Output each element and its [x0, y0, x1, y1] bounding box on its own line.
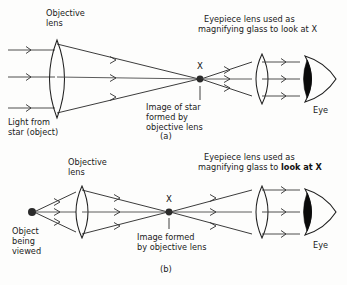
source-label-b-line2: being — [12, 236, 35, 246]
objective-lens-a — [50, 40, 65, 118]
panel-b-converging-rays — [82, 190, 168, 234]
eyepiece-label-b-line2: magnifying glass to look at X — [198, 162, 323, 172]
image-caption-a-line3: objective lens — [146, 122, 203, 132]
eye-label-b: Eye — [313, 240, 328, 250]
panel-a: Objective lens Eyepiece lens used as mag… — [8, 8, 336, 141]
image-caption-b-line2: by objective lens — [137, 242, 206, 252]
eyepiece-label-b-line2-bold: look at X — [281, 162, 323, 172]
ray-conv-top — [57, 44, 199, 79]
eye-pupil-a — [304, 60, 312, 98]
objective-label-b-line1: Objective — [68, 157, 107, 167]
panel-b-output-rays — [262, 187, 300, 238]
panel-a-caption: (a) — [160, 131, 172, 141]
image-point-label-a: X — [197, 61, 203, 71]
optics-ray-diagram: Objective lens Eyepiece lens used as mag… — [0, 0, 347, 285]
eye-a — [304, 56, 337, 102]
source-label-a-line2: star (object) — [8, 127, 58, 137]
panel-a-output-rays — [262, 59, 300, 100]
image-caption-a-line1: Image of star — [146, 102, 201, 112]
eyepiece-label-a-line1: Eyepiece lens used as — [204, 14, 295, 24]
image-caption-a-line2: formed by — [146, 112, 188, 122]
image-caption-b-line1: Image formed — [137, 232, 195, 242]
eye-b — [304, 189, 337, 235]
ray-b-conv-top — [82, 190, 168, 212]
objective-label-b-line2: lens — [68, 167, 85, 177]
objective-label-a-line2: lens — [46, 18, 63, 28]
ray-b-conv-bottom — [82, 212, 168, 234]
eyepiece-label-a-line2: magnifying glass to look at X — [198, 24, 317, 34]
panel-b-caption: (b) — [160, 264, 172, 274]
eye-label-a: Eye — [313, 105, 328, 115]
eyepiece-label-b-line1: Eyepiece lens used as — [204, 152, 295, 162]
source-label-b-line1: Object — [12, 226, 39, 236]
eyepiece-label-b-line2-normal: magnifying glass to — [198, 162, 281, 172]
panel-b-incoming-rays — [34, 192, 76, 232]
image-point-label-b: X — [166, 194, 172, 204]
eyepiece-label-a-line2-normal: magnifying glass to — [198, 24, 281, 34]
optical-axis-a-left — [57, 77, 199, 79]
panel-b: Objective lens Eyepiece lens used as mag… — [12, 152, 336, 274]
eye-pupil-b — [304, 193, 312, 231]
panel-a-incoming-rays — [8, 47, 55, 112]
figure-container: Objective lens Eyepiece lens used as mag… — [0, 0, 347, 285]
panel-a-diverging-rays — [201, 62, 252, 96]
source-label-b-line3: viewed — [12, 246, 41, 256]
eyepiece-label-a-line2-bold: look at X — [281, 24, 317, 34]
panel-b-diverging-rays — [170, 190, 252, 234]
objective-label-a-line1: Objective — [46, 8, 85, 18]
source-label-a-line1: Light from — [8, 117, 50, 127]
